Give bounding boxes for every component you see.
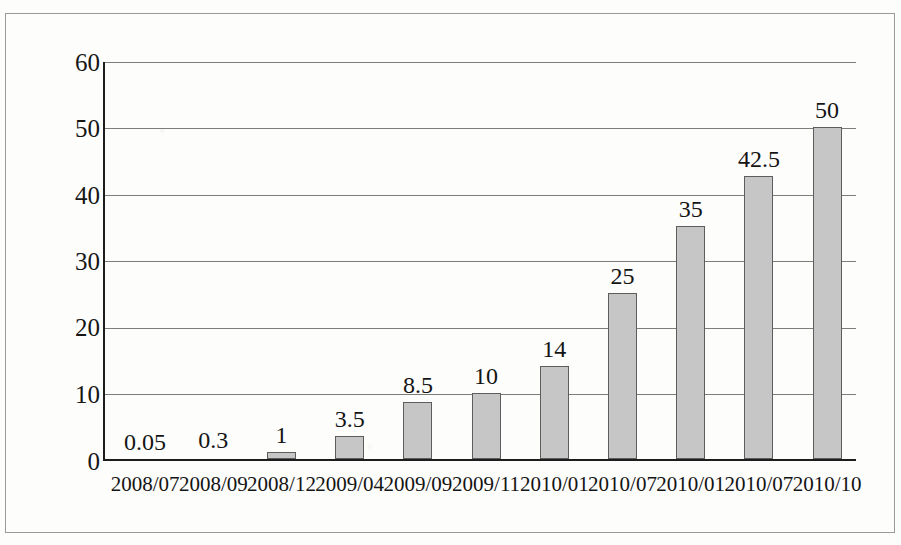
y-tick-30: 30 <box>5 249 100 274</box>
bar-2009-04 <box>335 436 364 459</box>
x-axis-line <box>103 459 856 461</box>
value-label-2010-01-a: 14 <box>509 337 599 361</box>
value-label-2010-07-b: 42.5 <box>714 147 804 171</box>
figure-container: 60 50 40 30 20 10 0 <box>0 0 901 545</box>
bar-chart: 60 50 40 30 20 10 0 <box>0 0 901 545</box>
bar-2010-07-a <box>608 293 637 459</box>
value-label-2010-10: 50 <box>782 98 872 122</box>
bar-2009-09 <box>403 402 432 459</box>
gridline-40 <box>103 195 856 196</box>
bar-2010-01-b <box>676 226 705 459</box>
y-tick-20: 20 <box>5 315 100 340</box>
value-label-2010-01-b: 35 <box>646 197 736 221</box>
gridline-50 <box>103 128 856 129</box>
bar-2010-10 <box>813 127 842 460</box>
value-label-2009-04: 3.5 <box>305 407 395 431</box>
y-tick-10: 10 <box>5 382 100 407</box>
plot-area <box>103 62 856 461</box>
y-tick-40: 40 <box>5 183 100 208</box>
bar-2010-07-b <box>744 176 773 459</box>
y-axis-line <box>103 62 105 461</box>
y-axis-tick-labels: 60 50 40 30 20 10 0 <box>0 0 100 545</box>
gridline-60 <box>103 62 856 63</box>
bar-2010-01-a <box>540 366 569 459</box>
x-tick-2010-10: 2010/10 <box>777 474 877 495</box>
bar-2009-11 <box>472 393 501 460</box>
bar-2008-12 <box>267 452 296 459</box>
gridline-30 <box>103 261 856 262</box>
y-tick-0: 0 <box>5 449 100 474</box>
y-tick-60: 60 <box>5 50 100 75</box>
value-label-2009-11: 10 <box>441 364 531 388</box>
y-tick-50: 50 <box>5 116 100 141</box>
value-label-2010-07-a: 25 <box>578 264 668 288</box>
gridline-20 <box>103 328 856 329</box>
